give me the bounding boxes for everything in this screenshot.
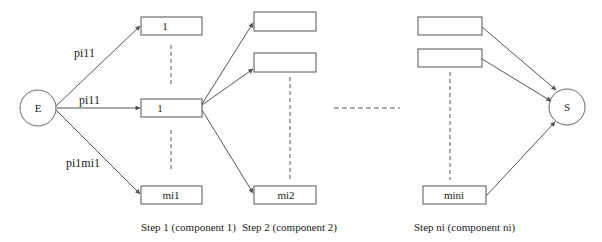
step2-box-top <box>254 12 316 31</box>
sink-edges <box>482 27 556 196</box>
stepni-column: mini <box>418 17 486 204</box>
edge-e-to-step1-bottom <box>56 110 140 194</box>
stepni-box-bottom-label: mini <box>444 189 464 201</box>
step2-caption: Step 2 (component 2) <box>242 221 337 234</box>
stepni-box-top <box>418 17 482 35</box>
stepni-caption: Step ni (component ni) <box>414 221 515 234</box>
step1-caption: Step 1 (component 1) <box>141 221 236 234</box>
step1-box-top-label: 1 <box>162 20 168 32</box>
sink-node-label: S <box>564 101 570 113</box>
edge-label-bottom: pi1mi1 <box>66 156 100 170</box>
step1-box-mid <box>141 99 202 117</box>
step1-box-bottom-label: mi1 <box>162 189 179 201</box>
step2-column: mi2 <box>254 12 316 204</box>
stepni-box-second <box>418 49 482 67</box>
edge-label-top: pi11 <box>74 46 95 60</box>
edge-label-middle: pi11 <box>79 93 100 107</box>
sink-node: S <box>549 89 585 125</box>
diagram-canvas: E S pi11 pi11 pi1mi1 1 1 mi1 mi2 <box>0 0 602 242</box>
step2-box-bottom-label: mi2 <box>277 189 294 201</box>
step1-box-mid-label: 1 <box>157 102 163 114</box>
entry-node: E <box>20 90 56 126</box>
step2-box-second <box>254 53 316 72</box>
step1-to-step2-edges <box>202 23 253 193</box>
entry-node-label: E <box>35 102 42 114</box>
step1-column: 1 1 mi1 <box>141 17 202 204</box>
step1-box-top <box>141 17 202 35</box>
